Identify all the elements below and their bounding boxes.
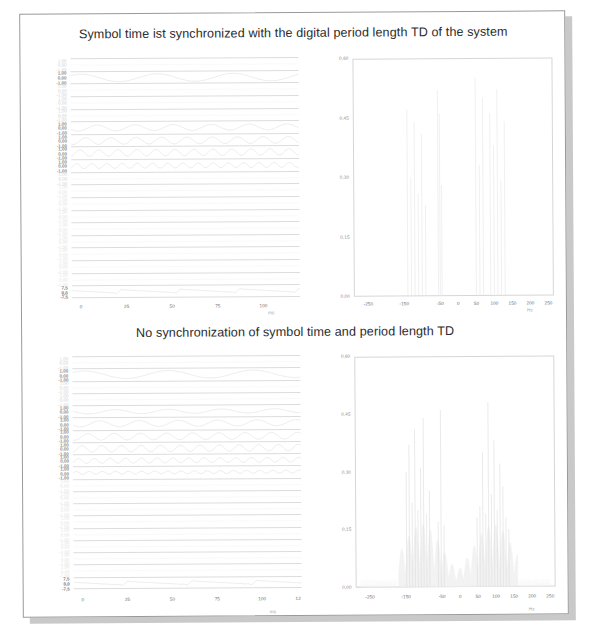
xtick-label: -50 [435,594,449,599]
xtick-label: -250 [363,594,377,599]
xtick-label: 0 [451,301,465,306]
bottom-time-plot [72,355,301,589]
xtick-label: 100 [256,303,270,308]
xtick-label: 25 [121,597,135,602]
figure-top-title: Symbol time ist synchronized with the di… [20,24,566,41]
ytick-label: 0,00 [328,585,352,590]
scanned-page: Symbol time ist synchronized with the di… [19,10,569,617]
ytick-label: 0,30 [327,469,351,474]
top-spectrum-plot [352,57,553,296]
ytick-label: -7,5 [40,587,70,592]
bottom-spectrum-plot [354,355,555,587]
channel-ytick-group: 7,50,0-7,5 [38,287,68,301]
bottom-time-xaxis-label: ms [270,609,276,614]
ytick-label: 0,60 [324,56,348,61]
xtick-label: 200 [523,301,537,306]
top-time-xaxis-label: ms [268,310,274,315]
top-time-channels [70,57,299,298]
channel-ytick-group: 7,50,0-7,5 [40,578,70,592]
xtick-label: 150 [507,594,521,599]
top-spectrum-xaxis-label: Hz [527,308,533,313]
xtick-label: -150 [399,594,413,599]
xtick-label: 100 [489,594,503,599]
xtick-label: 50 [469,301,483,306]
xtick-label: 50 [165,304,179,309]
xtick-label: 250 [542,300,556,305]
xtick-label: 50 [471,594,485,599]
ytick-label: 0,00 [326,294,350,299]
time-channel-row [72,284,300,298]
xtick-label: 50 [165,597,179,602]
ytick-label: 0,45 [325,115,349,120]
ytick-label: 0,60 [326,354,350,359]
top-spectrum-lines [352,57,553,296]
bottom-spectrum-lines [354,355,555,587]
xtick-label: -50 [433,301,447,306]
top-time-plot [70,57,299,298]
ytick-label: 0,45 [327,411,351,416]
xtick-label: 12 [291,596,305,601]
ytick-label: -7,5 [38,296,68,301]
xtick-label: 100 [255,596,269,601]
xtick-label: -250 [361,302,375,307]
ytick-label: 0,15 [326,234,350,239]
xtick-label: 100 [487,301,501,306]
xtick-label: 200 [525,594,539,599]
figure-bottom-title: No synchronization of symbol time and pe… [22,323,568,340]
xtick-label: 0 [76,597,90,602]
figure-top: Symbol time ist synchronized with the di… [20,11,568,320]
time-channel-row [74,576,302,590]
xtick-label: 25 [120,304,134,309]
xtick-label: 75 [210,596,224,601]
bottom-spectrum-xaxis-label: Hz [529,607,535,612]
xtick-label: -150 [397,301,411,306]
figure-bottom: No synchronization of symbol time and pe… [22,317,569,617]
ytick-label: 0,30 [325,175,349,180]
bottom-time-channels [72,355,301,589]
xtick-label: 250 [543,593,557,598]
xtick-label: 0 [453,594,467,599]
xtick-label: 150 [505,301,519,306]
ytick-label: 0,15 [327,527,351,532]
xtick-label: 0 [74,304,88,309]
xtick-label: 75 [211,303,225,308]
